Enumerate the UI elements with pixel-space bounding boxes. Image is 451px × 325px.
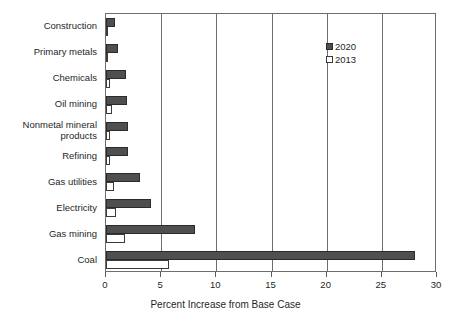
- bar-2013: [106, 208, 116, 217]
- bar-2020: [106, 199, 151, 208]
- bar-row: [106, 247, 435, 273]
- bar-row: [106, 169, 435, 195]
- legend-swatch-2013-icon: [326, 56, 333, 63]
- bar-row: [106, 40, 435, 66]
- bar-2013: [106, 234, 125, 243]
- legend-item-2013: 2013: [326, 53, 356, 66]
- x-tick-mark-30: [436, 272, 437, 277]
- plot-area: [105, 13, 436, 272]
- x-tick-label-30: 30: [421, 279, 451, 291]
- bar-2013: [106, 105, 112, 114]
- y-axis-label-9: Coal: [0, 254, 97, 265]
- x-tick-label-25: 25: [366, 279, 396, 291]
- bar-2020: [106, 173, 140, 182]
- x-axis-title: Percent Increase from Base Case: [0, 299, 451, 310]
- y-axis-label-1: Primary metals: [0, 46, 97, 57]
- bar-row: [106, 221, 435, 247]
- bar-2013: [106, 260, 169, 269]
- y-axis-label-2: Chemicals: [0, 72, 97, 83]
- bar-2013: [106, 27, 108, 36]
- bar-chart: ConstructionPrimary metalsChemicalsOil m…: [0, 0, 451, 325]
- bar-row: [106, 92, 435, 118]
- bar-row: [106, 144, 435, 170]
- x-tick-label-0: 0: [90, 279, 120, 291]
- legend-item-2020: 2020: [326, 40, 356, 53]
- y-axis-label-0: Construction: [0, 20, 97, 31]
- x-tick-label-10: 10: [200, 279, 230, 291]
- bar-2013: [106, 53, 108, 62]
- bar-2013: [106, 131, 110, 140]
- bar-row: [106, 118, 435, 144]
- bar-2020: [106, 225, 195, 234]
- x-tick-mark-20: [326, 272, 327, 277]
- bar-series-group: [106, 14, 435, 271]
- y-axis-label-5: Refining: [0, 150, 97, 161]
- bar-2020: [106, 251, 415, 260]
- bar-2020: [106, 70, 126, 79]
- legend-swatch-2020-icon: [326, 43, 333, 50]
- x-tick-label-20: 20: [311, 279, 341, 291]
- legend-label-2020: 2020: [335, 40, 356, 53]
- x-tick-mark-10: [215, 272, 216, 277]
- chart-legend: 2020 2013: [326, 40, 356, 66]
- bar-row: [106, 14, 435, 40]
- x-tick-label-5: 5: [145, 279, 175, 291]
- bar-2020: [106, 44, 118, 53]
- bar-2020: [106, 18, 115, 27]
- x-tick-label-15: 15: [256, 279, 286, 291]
- legend-label-2013: 2013: [335, 53, 356, 66]
- y-axis-label-3: Oil mining: [0, 98, 97, 109]
- bar-2013: [106, 79, 110, 88]
- bar-2013: [106, 156, 110, 165]
- x-tick-mark-15: [271, 272, 272, 277]
- y-axis-category-labels: ConstructionPrimary metalsChemicalsOil m…: [0, 13, 101, 272]
- bar-2013: [106, 182, 114, 191]
- x-tick-mark-25: [381, 272, 382, 277]
- y-axis-label-6: Gas utilities: [0, 176, 97, 187]
- x-tick-mark-5: [160, 272, 161, 277]
- bar-2020: [106, 122, 128, 131]
- bar-row: [106, 195, 435, 221]
- y-axis-label-4: Nonmetal mineral products: [0, 119, 97, 141]
- x-tick-mark-0: [105, 272, 106, 277]
- bar-row: [106, 66, 435, 92]
- y-axis-label-7: Electricity: [0, 202, 97, 213]
- bar-2020: [106, 96, 127, 105]
- y-axis-label-8: Gas mining: [0, 228, 97, 239]
- bar-2020: [106, 147, 128, 156]
